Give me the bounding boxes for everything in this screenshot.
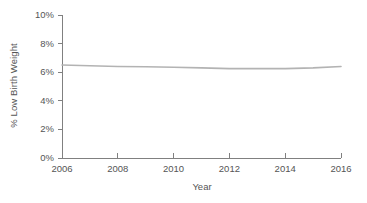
plot-area bbox=[0, 0, 367, 203]
axes-group bbox=[58, 15, 341, 158]
y-axis-ticks bbox=[58, 15, 62, 158]
x-axis-title: Year bbox=[62, 181, 342, 192]
data-series-line bbox=[62, 65, 341, 69]
x-axis-ticks bbox=[62, 153, 341, 158]
line-chart: % Low Birth Weight 0%2%4%6%8%10% 2006200… bbox=[0, 0, 367, 203]
